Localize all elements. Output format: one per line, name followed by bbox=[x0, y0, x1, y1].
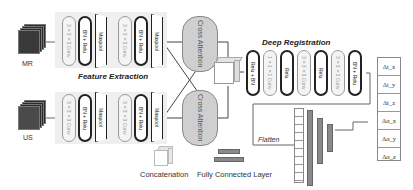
feature-extraction-title: Feature Extraction bbox=[78, 72, 148, 81]
output-daz: Δα_z bbox=[378, 148, 400, 165]
dr-conv-3x3-2: 3×3×3 Conv bbox=[331, 50, 345, 96]
output-dtx: Δt_x bbox=[378, 58, 400, 76]
dr-relu-1: Relu bbox=[280, 50, 294, 96]
cross-attention-bottom: Cross Attention bbox=[182, 90, 218, 146]
output-dax: Δα_x bbox=[378, 112, 400, 130]
output-parameters: Δt_x Δt_y Δt_z Δα_x Δα_y Δα_z bbox=[377, 57, 401, 161]
mr-maxpool-2: Maxpool bbox=[151, 14, 163, 68]
dr-conv-1x1: 1×1×1 Conv bbox=[263, 50, 277, 96]
output-dty: Δt_y bbox=[378, 76, 400, 94]
us-bn-relu-1: BN + Relu bbox=[78, 94, 92, 142]
dr-relu-2: Relu bbox=[314, 50, 328, 96]
us-label: US bbox=[23, 134, 33, 141]
dr-relu-bn: Relu + BN bbox=[246, 50, 260, 96]
output-day: Δα_y bbox=[378, 130, 400, 148]
dr-conv-3x3-1: 3×3×3 Conv bbox=[297, 50, 311, 96]
us-conv-1: 3×3×3 Conv bbox=[62, 94, 76, 142]
us-maxpool-1: Maxpool bbox=[95, 92, 107, 142]
mr-conv-1: 3×3×3 Conv bbox=[62, 16, 76, 66]
deep-registration-title: Deep Registration bbox=[262, 38, 330, 47]
flatten-vector bbox=[294, 108, 304, 183]
legend-fc-label: Fully Connected Layer bbox=[197, 170, 272, 179]
legend-concatenation-label: Concatenation bbox=[140, 170, 188, 179]
us-conv-2: 3×3×3 Conv bbox=[118, 94, 132, 142]
dr-bn-relu: BN + Relu bbox=[348, 50, 362, 96]
mr-bn-relu-2: BN + Relu bbox=[134, 16, 148, 66]
mr-maxpool-1: Maxpool bbox=[95, 14, 107, 68]
mr-conv-2: 3×3×3 Conv bbox=[118, 16, 132, 66]
mr-label: MR bbox=[22, 60, 33, 67]
output-dtz: Δt_z bbox=[378, 94, 400, 112]
us-bn-relu-2: BN + Relu bbox=[134, 94, 148, 142]
flatten-label: Flatten bbox=[258, 136, 279, 143]
cross-attention-top: Cross Attention bbox=[182, 16, 218, 72]
fc-layer-1 bbox=[307, 110, 313, 186]
us-maxpool-2: Maxpool bbox=[151, 92, 163, 142]
mr-bn-relu-1: BN + Relu bbox=[78, 16, 92, 66]
fc-layer-3 bbox=[327, 124, 333, 152]
fc-layer-2 bbox=[317, 118, 323, 164]
